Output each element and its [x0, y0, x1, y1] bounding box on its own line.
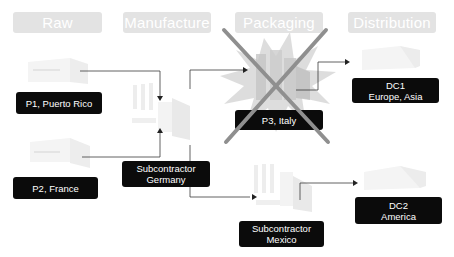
header-distribution: Distribution [348, 12, 436, 33]
node-dc1-line2: Europe, Asia [369, 91, 423, 102]
node-mexico-line1: Subcontractor [252, 223, 311, 234]
header-raw-materials: Raw Materials [13, 12, 102, 33]
header-manufacture: Manufacture [123, 12, 211, 33]
node-dc1-line1: DC1 [386, 80, 405, 91]
node-p2[interactable]: P2, France [13, 177, 98, 199]
arrow-icon [252, 194, 257, 200]
node-dc2[interactable]: DC2 America [355, 197, 442, 224]
node-subcontractor-germany[interactable]: Subcontractor Germany [122, 161, 210, 187]
node-p3-label: P3, Italy [262, 115, 296, 126]
connector-p2-to-germany [82, 131, 160, 157]
factory-icon-mexico [254, 164, 312, 212]
factory-icon-p1 [28, 58, 88, 84]
factory-icon-p2 [30, 138, 90, 168]
node-mexico-line2: Mexico [266, 234, 296, 245]
node-germany-line1: Subcontractor [136, 163, 195, 174]
node-p3[interactable]: P3, Italy [235, 110, 323, 130]
node-germany-line2: Germany [146, 174, 185, 185]
arrow-icon [353, 180, 358, 186]
node-subcontractor-mexico[interactable]: Subcontractor Mexico [239, 221, 324, 247]
warehouse-icon-dc1 [362, 46, 420, 70]
node-dc2-line2: America [381, 211, 416, 222]
arrow-icon [157, 96, 163, 101]
warehouse-icon-dc2 [364, 166, 426, 190]
node-p2-label: P2, France [32, 183, 78, 194]
arrow-icon [345, 59, 350, 65]
node-dc2-line1: DC2 [389, 200, 408, 211]
node-p1-label: P1, Puerto Rico [26, 98, 93, 109]
node-p1[interactable]: P1, Puerto Rico [16, 92, 102, 114]
node-dc1[interactable]: DC1 Europe, Asia [352, 78, 439, 103]
header-packaging: Packaging [235, 12, 323, 33]
